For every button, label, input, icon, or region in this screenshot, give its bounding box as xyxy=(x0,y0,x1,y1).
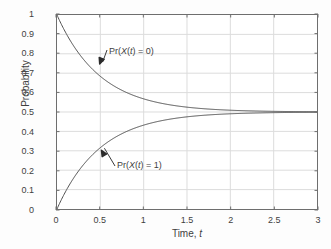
x-tick-label: 1 xyxy=(141,216,146,225)
annotation-suffix: ) = 0) xyxy=(133,46,154,56)
y-tick-label: 0 xyxy=(29,206,34,215)
y-tick-label: 0.1 xyxy=(21,186,34,195)
y-axis-tick-labels: 00.10.20.30.40.50.60.70.80.91 xyxy=(0,14,42,210)
x-tick-label: 1.5 xyxy=(181,216,194,225)
y-tick-label: 0.2 xyxy=(21,166,34,175)
x-tick-label: 0.5 xyxy=(93,216,106,225)
annotation-suffix: ) = 1) xyxy=(141,160,162,170)
annotation-label-state1: Pr(X(t) = 1) xyxy=(117,160,162,170)
x-axis-tick-labels: 00.511.522.53 xyxy=(56,211,318,225)
y-tick-label: 0.9 xyxy=(21,29,34,38)
plot-area xyxy=(56,14,318,210)
y-tick-label: 0.8 xyxy=(21,49,34,58)
y-tick-label: 1 xyxy=(29,10,34,19)
y-tick-label: 0.4 xyxy=(21,127,34,136)
y-tick-label: 0.6 xyxy=(21,88,34,97)
annotation-label-state0: Pr(X(t) = 0) xyxy=(109,46,154,56)
curve-layer xyxy=(57,15,317,209)
annotation-prefix: Pr( xyxy=(109,46,121,56)
x-axis-title-variable: t xyxy=(199,228,202,239)
figure-canvas: Probability 00.10.20.30.40.50.60.70.80.9… xyxy=(0,0,331,249)
x-tick-label: 3 xyxy=(315,216,320,225)
x-axis-title-text: Time, xyxy=(172,228,199,239)
annotation-prefix: Pr( xyxy=(117,160,129,170)
y-tick-label: 0.3 xyxy=(21,147,34,156)
x-tick-label: 2.5 xyxy=(268,216,281,225)
y-tick-label: 0.7 xyxy=(21,68,34,77)
x-tick-label: 2 xyxy=(228,216,233,225)
x-tick-label: 0 xyxy=(53,216,58,225)
x-axis-title: Time, t xyxy=(56,228,318,239)
y-tick-label: 0.5 xyxy=(21,108,34,117)
